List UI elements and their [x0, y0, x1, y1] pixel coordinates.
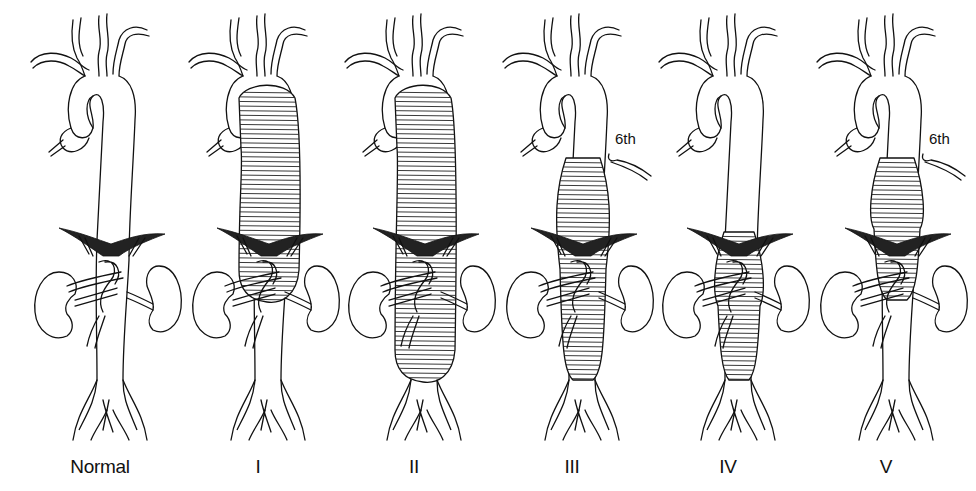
aorta-panel-type-2	[333, 0, 495, 445]
aorta-panel-normal	[19, 0, 181, 445]
panel-label-type-3: III	[565, 456, 580, 478]
arch-branch-vessels	[817, 14, 935, 76]
panel-label-type-5: V	[880, 456, 892, 478]
visceral-vessels	[67, 261, 153, 348]
panel-label-type-4: IV	[719, 456, 736, 478]
visceral-vessels	[853, 261, 939, 348]
left-kidney	[35, 272, 76, 338]
panel-label-type-1: I	[256, 456, 261, 478]
diaphragm	[59, 228, 165, 256]
sixth-rib-label: 6th	[929, 130, 950, 147]
panel-label-normal: Normal	[70, 456, 129, 478]
left-kidney	[349, 272, 390, 338]
aorta-panel-type-4	[647, 0, 809, 445]
arch-branch-vessels	[189, 14, 307, 76]
aorta-panel-type-3	[491, 0, 653, 445]
left-kidney	[663, 272, 704, 338]
sixth-rib	[608, 154, 651, 180]
arch-branch-vessels	[503, 14, 621, 76]
panel-label-type-2: II	[409, 456, 419, 478]
crawford-classification-diagram: Normal	[0, 0, 976, 491]
left-kidney	[507, 272, 548, 338]
aorta-panel-type-1	[177, 0, 339, 445]
arch-branch-vessels	[345, 14, 463, 76]
left-kidney	[193, 272, 234, 338]
aorta-panel-type-5	[805, 0, 967, 445]
arch-branch-vessels	[659, 14, 777, 76]
sixth-rib	[922, 154, 965, 180]
right-kidney	[933, 266, 968, 332]
sixth-rib-label: 6th	[615, 130, 636, 147]
arch-branch-vessels	[31, 14, 149, 76]
left-kidney	[821, 272, 862, 338]
